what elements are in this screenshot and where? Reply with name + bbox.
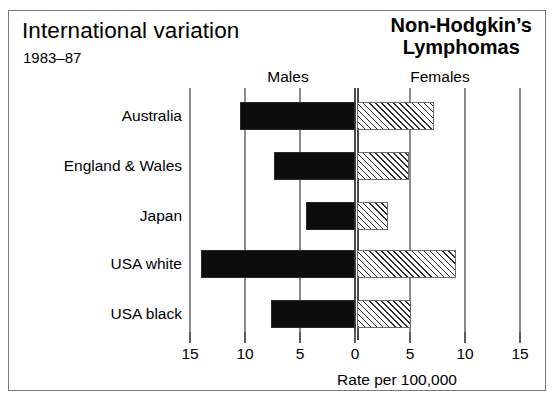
category-label: Japan bbox=[140, 207, 182, 225]
axis-tick-label: 5 bbox=[296, 345, 305, 363]
legend-label-females: Females bbox=[410, 68, 469, 86]
axis-tick-label: 0 bbox=[351, 345, 360, 363]
x-axis-title: Rate per 100,000 bbox=[337, 371, 457, 389]
chart-disease-title-line1: Non-Hodgkin’s bbox=[391, 14, 532, 36]
legend-label-males: Males bbox=[267, 68, 308, 86]
category-label: Australia bbox=[122, 107, 182, 125]
category-label: USA white bbox=[110, 255, 182, 273]
axis-tick-label: 15 bbox=[511, 345, 528, 363]
page-title: International variation bbox=[22, 18, 239, 44]
chart-disease-title-line2: Lymphomas bbox=[391, 36, 532, 58]
chart-disease-title: Non-Hodgkin’s Lymphomas bbox=[391, 14, 532, 59]
category-label: England & Wales bbox=[64, 157, 182, 175]
axis-tick-label: 10 bbox=[236, 345, 253, 363]
chart-figure: International variation 1983–87 Non-Hodg… bbox=[0, 0, 558, 407]
axis-tick-label: 5 bbox=[406, 345, 415, 363]
axis-tick-label: 15 bbox=[181, 345, 198, 363]
category-label: USA black bbox=[110, 305, 182, 323]
axis-tick-label: 10 bbox=[456, 345, 473, 363]
chart-period-label: 1983–87 bbox=[23, 49, 81, 66]
